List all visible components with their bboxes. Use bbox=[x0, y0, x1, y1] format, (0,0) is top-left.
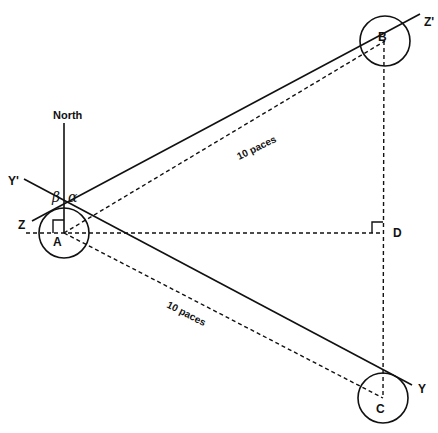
label-y: Y bbox=[418, 382, 426, 396]
label-d: D bbox=[393, 226, 402, 240]
label-b: B bbox=[378, 30, 387, 44]
label-north: North bbox=[53, 109, 83, 121]
label-a: A bbox=[53, 235, 62, 249]
label-y-prime: Y' bbox=[8, 174, 19, 188]
line-z-z-prime bbox=[32, 14, 420, 221]
triangulation-diagram: North Y' Z Z' Y A B C D β α 10 paces 10 … bbox=[0, 0, 438, 433]
right-angle-marker-a bbox=[53, 220, 64, 233]
right-angle-marker-d bbox=[372, 222, 383, 233]
label-c: C bbox=[376, 402, 385, 416]
dashed-line-b-c bbox=[383, 41, 384, 398]
label-ab-distance: 10 paces bbox=[235, 133, 278, 162]
label-alpha: α bbox=[68, 189, 78, 205]
label-beta: β bbox=[51, 189, 60, 205]
label-ac-distance: 10 paces bbox=[165, 299, 208, 328]
label-z-prime: Z' bbox=[424, 15, 434, 29]
label-z: Z bbox=[18, 218, 25, 232]
line-y-prime-y bbox=[24, 179, 412, 385]
dashed-line-a-c bbox=[64, 233, 383, 398]
dashed-line-a-b bbox=[64, 41, 385, 233]
